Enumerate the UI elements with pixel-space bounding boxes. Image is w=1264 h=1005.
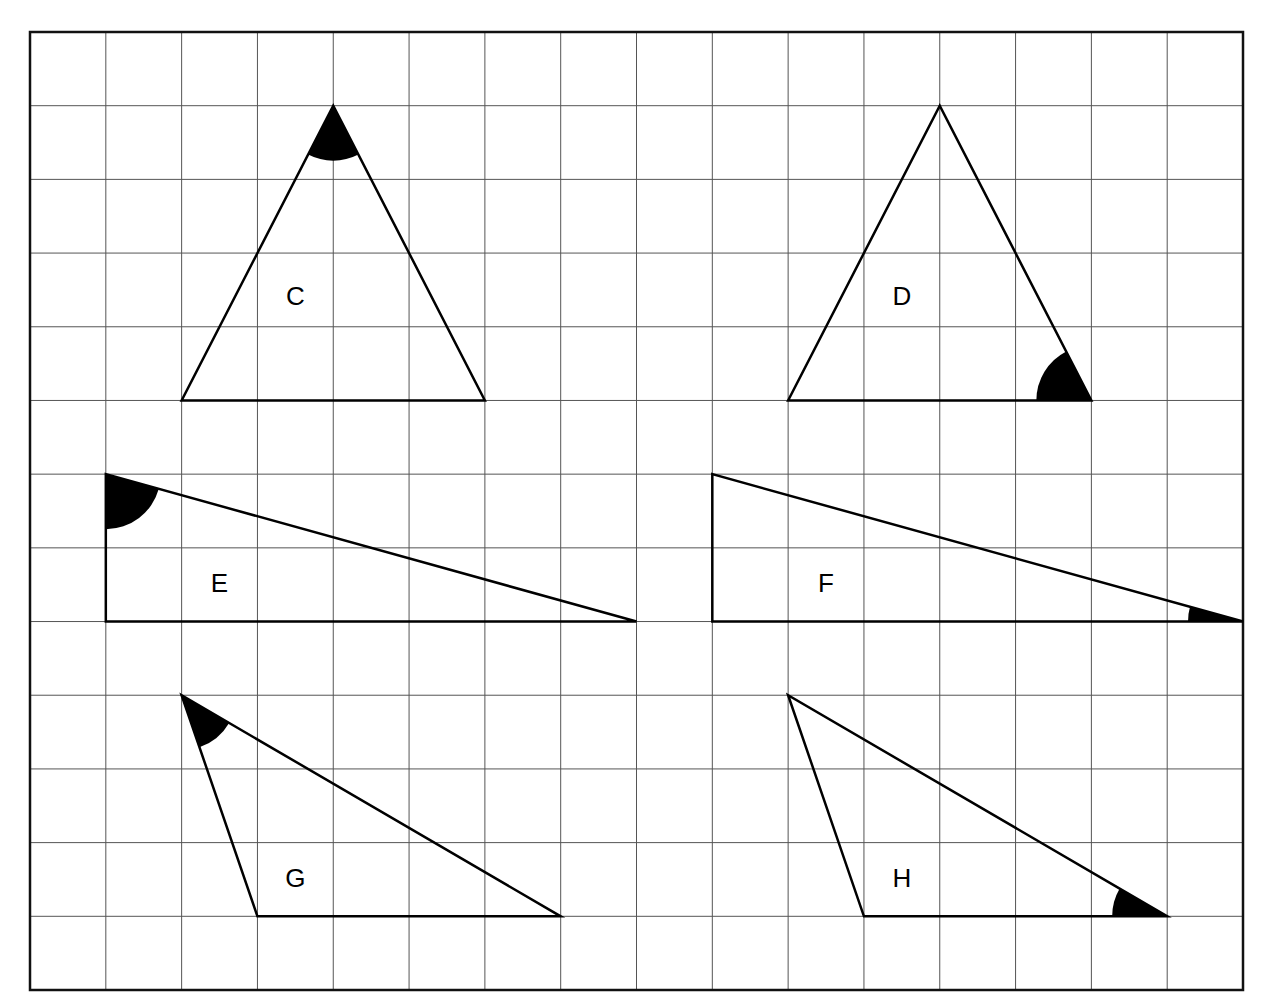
- triangle-grid-diagram: CDEFGH: [0, 0, 1264, 1005]
- angle-marker: [308, 106, 358, 161]
- triangle-label: C: [286, 281, 305, 311]
- grid: [30, 32, 1243, 990]
- triangle-label: E: [211, 568, 228, 598]
- triangle-g: G: [182, 695, 561, 916]
- triangle-label: D: [892, 281, 911, 311]
- angle-marker: [182, 695, 230, 747]
- triangle-h: H: [788, 695, 1167, 916]
- triangle-outline: [182, 695, 561, 916]
- triangle-label: H: [892, 863, 911, 893]
- triangles: CDEFGH: [106, 106, 1243, 917]
- triangle-label: G: [285, 863, 305, 893]
- triangle-label: F: [818, 568, 834, 598]
- angle-marker: [1036, 352, 1091, 401]
- triangle-outline: [788, 695, 1167, 916]
